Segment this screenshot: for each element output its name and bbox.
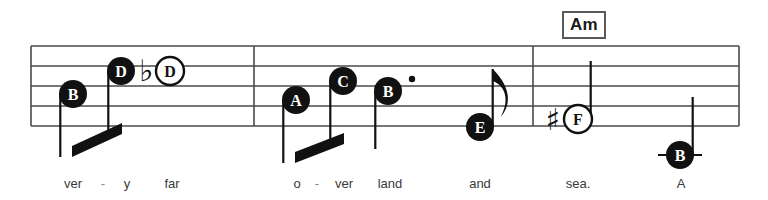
note-letter-label: A [290,92,302,109]
sharp-accidental-2: ♯ [546,102,561,137]
note-letter-label: E [475,119,486,136]
beam-group-layer [72,123,344,163]
stem-layer [60,61,692,163]
flat-accidental-1: ♭ [139,53,153,88]
lyric-syllable-11: A [677,176,686,191]
note-letter-label: D [164,63,176,80]
notehead-d-n3: D [156,57,184,85]
lyric-syllable-5: o [293,176,300,191]
note-letter-label: B [675,147,686,164]
notehead-d-n2: D [107,57,135,85]
chord-symbol-am: Am [562,11,606,39]
note-letter-label: B [68,86,79,103]
note-letter-label: F [573,111,583,128]
beam-group-2 [295,133,344,163]
notehead-e-n7: E [466,113,494,141]
eighth-note-flag-n7 [493,69,508,117]
lyric-syllable-10: sea. [566,176,591,191]
augmentation-dot-n6 [409,76,415,82]
notehead-f-n8: F [564,105,592,133]
accidental-layer: ♭♯ [139,53,560,137]
note-letter-label: D [115,63,127,80]
lyric-syllable-4: far [164,176,179,191]
note-letter-label: C [337,73,349,90]
lyric-syllable-8: land [378,176,403,191]
lyric-syllable-3: y [124,176,131,191]
lyric-hyphen-6: - [315,176,319,191]
lyric-syllable-1: ver [64,176,82,191]
notehead-c-n5: C [329,67,357,95]
lyric-syllable-7: ver [335,176,353,191]
notehead-b-n1: B [59,80,87,108]
beam-group-1 [72,123,122,157]
music-sheet: Am ♭♯ BDDACBEFB ver-yfaro-verlandandsea.… [0,0,768,200]
notehead-layer: BDDACBEFB [59,57,694,169]
notehead-b-n6: B [374,77,402,105]
note-letter-label: B [383,83,394,100]
staff-notation: ♭♯ BDDACBEFB [0,0,768,200]
notehead-a-n4: A [282,86,310,114]
augmentation-dot-layer [409,76,415,82]
lyric-hyphen-2: - [101,176,105,191]
lyric-syllable-9: and [469,176,491,191]
notehead-b-n9: B [666,141,694,169]
